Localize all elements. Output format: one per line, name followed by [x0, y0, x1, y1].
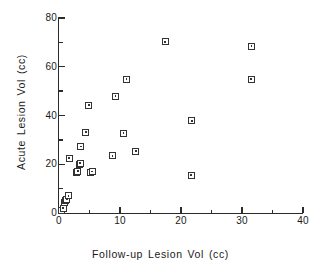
- y-tick-label: 40: [45, 111, 57, 121]
- x-tick-label: 0: [56, 216, 62, 226]
- data-point: [188, 117, 195, 124]
- data-point: [74, 168, 81, 175]
- y-axis-title: Acute Lesion Vol (cc): [15, 12, 27, 212]
- data-point: [123, 76, 130, 83]
- data-point: [65, 192, 72, 199]
- data-point: [112, 93, 119, 100]
- data-point: [120, 130, 127, 137]
- x-tick-label: 10: [114, 216, 126, 226]
- data-point: [77, 143, 84, 150]
- data-point: [248, 76, 255, 83]
- data-point: [109, 152, 116, 159]
- x-axis-title: Follow-up Lesion Vol (cc): [0, 248, 321, 260]
- data-point: [89, 168, 96, 175]
- y-tick-label: 20: [45, 159, 57, 169]
- x-tick-label: 40: [297, 216, 309, 226]
- data-point: [66, 155, 73, 162]
- data-point: [188, 172, 195, 179]
- data-point: [162, 38, 169, 45]
- y-tick-label: 60: [45, 62, 57, 72]
- x-tick-label: 30: [236, 216, 248, 226]
- data-point: [132, 148, 139, 155]
- data-point: [82, 129, 89, 136]
- y-tick-label: 80: [45, 13, 57, 23]
- plot-area: [59, 18, 303, 213]
- data-point: [85, 102, 92, 109]
- data-point: [248, 43, 255, 50]
- data-point: [77, 160, 84, 167]
- x-tick-label: 20: [175, 216, 187, 226]
- scatter-plot-figure: 020406080010203040 Follow-up Lesion Vol …: [0, 0, 321, 279]
